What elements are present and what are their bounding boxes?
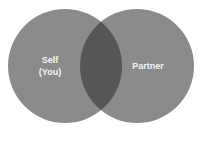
self-sublabel: (You) (39, 67, 61, 77)
partner-label: Partner (132, 61, 164, 71)
venn-diagram: Self (You) Partner (0, 0, 206, 147)
self-label: Self (42, 55, 60, 65)
